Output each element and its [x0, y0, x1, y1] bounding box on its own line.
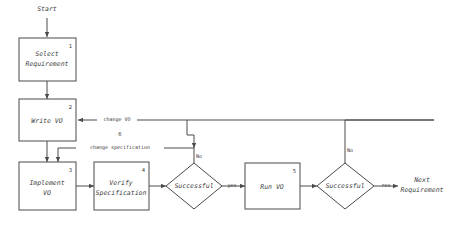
node-select-requirement-line1: Select: [35, 50, 59, 58]
node-implement-vo-line2: VO: [43, 189, 51, 197]
edge-label-step-six: 6: [118, 131, 121, 137]
node-successful-2-label: Successful: [325, 182, 364, 190]
node-select-requirement-number: 1: [69, 43, 72, 49]
edge-label-yes-second: res: [381, 182, 390, 188]
edge-label-change-specification: change specification: [90, 144, 150, 151]
node-verify-specification-line2: Specification: [96, 189, 147, 197]
node-write-vo-number: 2: [69, 104, 72, 110]
node-run-vo-line1: Run VO: [260, 183, 284, 191]
flowchart-svg: Start Select Requirement 1 Write VO 2 Im…: [0, 0, 454, 225]
node-implement-vo-number: 3: [69, 167, 72, 173]
terminal-start-label: Start: [37, 5, 57, 13]
node-write-vo-line1: Write VO: [31, 117, 62, 125]
node-successful-1-label: Successful: [174, 182, 213, 190]
flowchart-canvas: Start Select Requirement 1 Write VO 2 Im…: [0, 0, 454, 225]
edge-label-no-second: No: [347, 147, 353, 153]
node-implement-vo-line1: Implement: [29, 179, 64, 187]
edge-label-change-vo: change VO: [103, 116, 130, 123]
node-select-requirement-line2: Requirement: [25, 60, 68, 68]
edge-bus-jog-to-no1: [187, 135, 194, 148]
node-run-vo-number: 5: [293, 168, 296, 174]
edge-label-no-first: No: [196, 153, 202, 159]
terminal-next-requirement-line1: Next: [413, 176, 430, 184]
node-verify-specification-line1: Verify: [109, 179, 133, 187]
edge-label-yes-first: yes: [227, 182, 236, 189]
terminal-next-requirement-line2: Requirement: [400, 186, 443, 194]
